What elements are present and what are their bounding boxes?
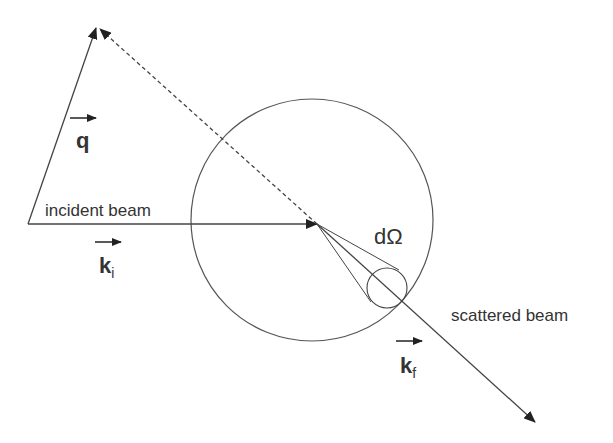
q-label: q bbox=[76, 128, 89, 153]
incident-beam-label: incident beam bbox=[45, 201, 151, 220]
ki-label: ki bbox=[99, 253, 114, 281]
kf-label: kf bbox=[400, 353, 416, 381]
q-vector bbox=[28, 28, 96, 224]
scattered-beam-label: scattered beam bbox=[451, 306, 568, 325]
dashed-construction-vector bbox=[100, 29, 317, 224]
sample-sphere bbox=[191, 99, 433, 341]
scattering-diagram: incident beam scattered beam dΩ q ki kf bbox=[0, 0, 613, 443]
solid-angle-label: dΩ bbox=[374, 224, 403, 249]
kf-subscript: f bbox=[412, 365, 416, 381]
cone-edge-lower bbox=[317, 224, 371, 302]
ki-subscript: i bbox=[111, 265, 114, 281]
